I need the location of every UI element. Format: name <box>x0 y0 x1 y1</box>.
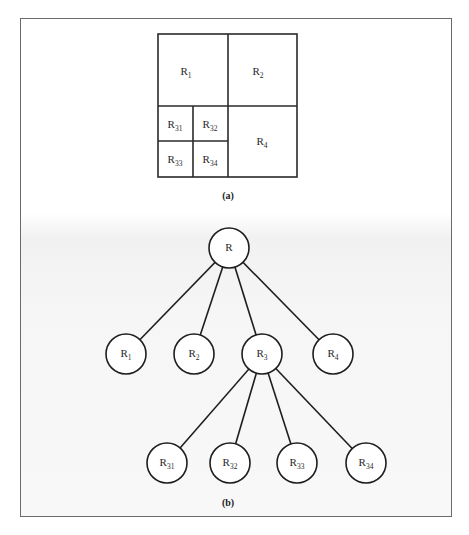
edge-r-r1 <box>126 248 229 354</box>
region-r33: R33 <box>168 153 183 168</box>
edge-r3-r34 <box>262 354 366 463</box>
tree-node-r33: R33 <box>277 443 317 483</box>
region-r34: R34 <box>203 153 218 168</box>
node-label: R <box>225 241 233 253</box>
quadtree-figure: R1 R2 R31 R32 R33 R34 R4 (a) RR1R2R3R4R3… <box>0 0 469 535</box>
tree-node-r2: R2 <box>174 334 214 374</box>
tree-node-r34: R34 <box>346 443 386 483</box>
caption-a: (a) <box>222 190 234 202</box>
region-r2: R2 <box>252 65 263 80</box>
caption-b: (b) <box>222 497 234 509</box>
region-partition-grid: R1 R2 R31 R32 R33 R34 R4 <box>158 34 297 177</box>
tree-node-r1: R1 <box>106 334 146 374</box>
tree-node-r4: R4 <box>313 334 353 374</box>
edge-r-r4 <box>229 248 333 354</box>
region-r4: R4 <box>256 135 267 150</box>
region-r31: R31 <box>168 118 183 133</box>
tree-node-r3: R3 <box>242 334 282 374</box>
tree-node-r: R <box>209 228 249 268</box>
tree-node-r32: R32 <box>210 443 250 483</box>
region-r1: R1 <box>180 65 191 80</box>
region-r32: R32 <box>203 118 218 133</box>
tree-node-r31: R31 <box>147 443 187 483</box>
